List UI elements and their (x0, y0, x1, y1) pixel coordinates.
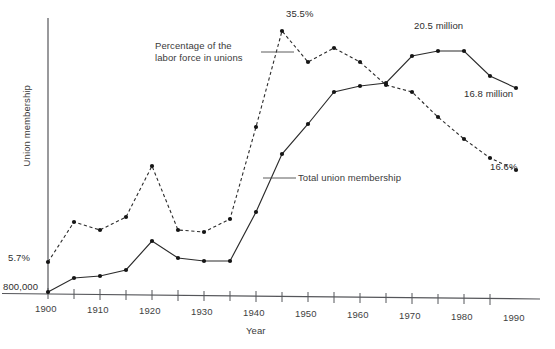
series-percentage-points (46, 29, 518, 264)
x-tick-label-1910: 1910 (87, 304, 109, 316)
x-tick-label-1960: 1960 (347, 309, 369, 321)
union-membership-chart: Union membership Year 1900 1910 1920 193… (0, 0, 555, 349)
series-percentage-line (48, 31, 516, 262)
x-tick-label-1930: 1930 (191, 306, 213, 318)
annotation-pct-end: 16.6% (490, 161, 517, 173)
x-tick-label-1950: 1950 (295, 308, 317, 320)
x-tick-label-1900: 1900 (35, 303, 57, 315)
annotation-total-start: 800,000 (3, 281, 38, 293)
x-axis-title: Year (246, 325, 266, 337)
annotation-total-end: 16.8 million (464, 88, 513, 100)
series-label-percentage-line1: Percentage of the (155, 40, 232, 51)
series-label-percentage: Percentage of the labor force in unions (155, 40, 243, 63)
series-total-line (48, 51, 516, 292)
chart-plot-area (0, 0, 555, 349)
annotation-pct-start: 5.7% (8, 252, 30, 264)
x-tick-label-1940: 1940 (243, 307, 265, 319)
series-label-total: Total union membership (298, 172, 401, 184)
series-total-points (46, 49, 518, 294)
x-tick-label-1970: 1970 (399, 310, 421, 322)
annotation-total-peak: 20.5 million (414, 20, 463, 32)
x-tick-label-1980: 1980 (451, 311, 473, 323)
x-tick-label-1920: 1920 (139, 305, 161, 317)
x-axis-line (2, 294, 540, 300)
y-axis-title: Union membership (21, 81, 33, 171)
series-label-percentage-line2: labor force in unions (155, 52, 243, 63)
annotation-pct-peak: 35.5% (286, 8, 313, 20)
x-tick-label-1990: 1990 (503, 312, 525, 324)
